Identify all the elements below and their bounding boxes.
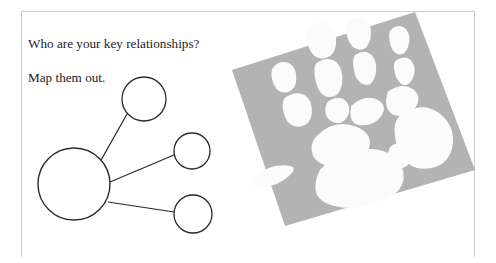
map-node-relation-2[interactable] [174,133,210,169]
prompt-line-1: Who are your key relationships? [28,35,238,52]
map-node-relation-3[interactable] [174,195,212,233]
relationship-map [22,62,222,242]
map-node-self[interactable] [38,148,110,220]
handprint-photo [222,10,476,235]
map-link-self-to-relation-3 [108,202,174,212]
map-link-self-to-relation-2 [110,155,174,182]
map-link-self-to-relation-1 [100,114,127,162]
worksheet-page: Who are your key relationships? Map them… [0,0,496,263]
map-node-relation-1[interactable] [122,77,166,121]
